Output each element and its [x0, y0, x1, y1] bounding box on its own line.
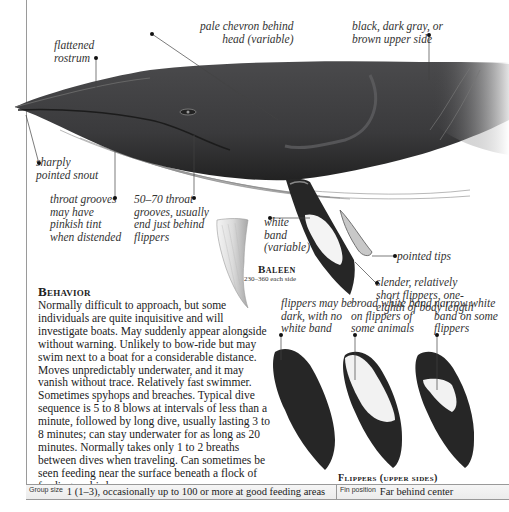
group-size-cell: Group size 1 (1–3), occasionally up to 1… [26, 485, 336, 499]
fin-position-cell: Fin position Far behind center [337, 485, 509, 499]
leader-dot [393, 254, 397, 258]
info-footer: Group size 1 (1–3), occasionally up to 1… [26, 484, 509, 500]
leader-dot [375, 281, 379, 285]
flipper-broad-white-band [343, 352, 402, 468]
label-flattened-rostrum: flattened rostrum [54, 39, 94, 64]
label-throat-grooves-count: 50–70 throat grooves, usually end just b… [134, 193, 209, 243]
baleen-subtitle: 230–360 each side [244, 275, 296, 283]
group-size-value: 1 (1–3), occasionally up to 100 or more … [67, 485, 325, 498]
fin-position-key: Fin position [340, 486, 376, 493]
leader-dot [150, 32, 154, 36]
label-pointed-snout: sharply pointed snout [36, 156, 98, 181]
label-throat-grooves-tint: throat grooves may have pinkish tint whe… [50, 193, 121, 243]
leader-dot [435, 333, 439, 337]
leader-dot [353, 333, 357, 337]
flippers-title: Flippers (upper sides) [338, 472, 438, 483]
leader-dot [279, 333, 283, 337]
label-flipper-narrow-band: narrow white band on some flippers [434, 297, 498, 335]
flipper-narrow-white-band [415, 352, 474, 468]
leader-dot [94, 56, 98, 60]
flipper-dark [273, 349, 335, 470]
leader-dot [37, 161, 41, 165]
leader-dot [427, 33, 431, 37]
label-white-band: white band (variable) [264, 216, 310, 254]
leader-dot [113, 196, 117, 200]
behavior-text: Normally difficult to approach, but some… [38, 299, 270, 493]
label-flipper-broad-band: broad white band on flippers of some ani… [351, 297, 432, 335]
label-pale-chevron: pale chevron behind head (variable) [200, 20, 293, 45]
fin-position-value: Far behind center [380, 485, 453, 498]
baleen-title: Baleen [258, 263, 296, 275]
leader-dot [268, 216, 272, 220]
label-flipper-dark: flippers may be dark, with no white band [281, 297, 352, 335]
group-size-key: Group size [29, 486, 63, 493]
leader-dot [192, 196, 196, 200]
behavior-section: Behavior Normally difficult to approach,… [38, 285, 270, 493]
label-pointed-tips: pointed tips [397, 250, 451, 263]
behavior-heading: Behavior [38, 285, 270, 299]
